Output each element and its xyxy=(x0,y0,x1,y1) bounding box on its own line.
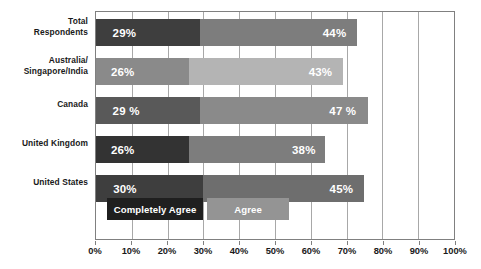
category-label-united-kingdom: United Kingdom xyxy=(0,138,88,149)
x-axis-tick xyxy=(167,241,168,245)
legend-item-completely-agree[interactable]: Completely Agree xyxy=(107,198,204,220)
x-axis-tick-label: 10% xyxy=(122,246,141,256)
category-label-line: United States xyxy=(0,177,88,188)
stacked-bar-chart: Total Respondents Australia/ Singapore/I… xyxy=(0,0,481,269)
bar-value-label: 44% xyxy=(323,27,347,39)
legend-label: Agree xyxy=(234,204,262,215)
legend-label: Completely Agree xyxy=(114,204,197,215)
x-axis-tick xyxy=(239,241,240,245)
x-axis-tick-label: 40% xyxy=(230,246,249,256)
bar-segment-completely-agree[interactable]: 29% xyxy=(96,19,200,46)
plot-area: 29% 44% 26% 43% 29 % 47 % xyxy=(95,11,455,240)
x-axis-tick-label: 0% xyxy=(88,246,101,256)
x-axis-tick xyxy=(455,241,456,245)
bar-row: 26% 38% xyxy=(96,136,454,163)
x-axis-tick-label: 90% xyxy=(410,246,429,256)
category-label-australia-singapore-india: Australia/ Singapore/India xyxy=(0,55,88,76)
bar-segment-completely-agree[interactable]: 26% xyxy=(96,136,189,163)
category-label-line: Singapore/India xyxy=(0,66,88,77)
category-label-canada: Canada xyxy=(0,99,88,110)
x-axis-tick xyxy=(419,241,420,245)
x-axis-tick xyxy=(311,241,312,245)
category-label-line: Australia/ xyxy=(0,55,88,66)
category-label-line: Respondents xyxy=(0,27,88,38)
legend-item-agree[interactable]: Agree xyxy=(207,198,289,220)
x-axis-tick xyxy=(203,241,204,245)
x-axis: 0% 10% 20% 30% 40% 50% 60% 70% 80% 90% 1… xyxy=(95,241,455,265)
x-axis-tick-label: 50% xyxy=(266,246,285,256)
bar-value-label: 29% xyxy=(113,27,137,39)
bar-segment-agree[interactable]: 38% xyxy=(189,136,325,163)
bar-row: 26% 43% xyxy=(96,58,454,85)
bar-value-label: 29 % xyxy=(113,105,140,117)
category-label-united-states: United States xyxy=(0,177,88,188)
bar-segment-agree[interactable]: 43% xyxy=(189,58,343,85)
x-axis-tick xyxy=(95,241,96,245)
x-axis-tick-label: 60% xyxy=(302,246,321,256)
bar-row: 29 % 47 % xyxy=(96,97,454,124)
bar-value-label: 30% xyxy=(113,183,137,195)
category-label-line: Total xyxy=(0,16,88,27)
bar-value-label: 47 % xyxy=(329,105,356,117)
x-axis-tick xyxy=(347,241,348,245)
category-axis-labels: Total Respondents Australia/ Singapore/I… xyxy=(0,10,92,200)
bar-value-label: 26% xyxy=(111,66,135,78)
x-axis-tick-label: 80% xyxy=(374,246,393,256)
bar-value-label: 38% xyxy=(292,144,316,156)
x-axis-tick-label: 30% xyxy=(194,246,213,256)
x-axis-tick xyxy=(383,241,384,245)
bar-segment-completely-agree[interactable]: 26% xyxy=(96,58,189,85)
chart-legend: Completely Agree Agree xyxy=(96,198,454,220)
x-axis-tick xyxy=(275,241,276,245)
category-label-line: Canada xyxy=(0,99,88,110)
bar-segment-agree[interactable]: 47 % xyxy=(200,97,368,124)
bar-value-label: 43% xyxy=(309,66,333,78)
x-axis-tick-label: 20% xyxy=(158,246,177,256)
x-axis-tick xyxy=(131,241,132,245)
bar-segment-agree[interactable]: 44% xyxy=(200,19,358,46)
x-axis-tick-label: 100% xyxy=(443,246,467,256)
x-axis-tick-label: 70% xyxy=(338,246,357,256)
category-label-line: United Kingdom xyxy=(0,138,88,149)
bar-value-label: 26% xyxy=(111,144,135,156)
bar-segment-completely-agree[interactable]: 29 % xyxy=(96,97,200,124)
bar-value-label: 45% xyxy=(330,183,354,195)
category-label-total-respondents: Total Respondents xyxy=(0,16,88,37)
bar-row: 29% 44% xyxy=(96,19,454,46)
